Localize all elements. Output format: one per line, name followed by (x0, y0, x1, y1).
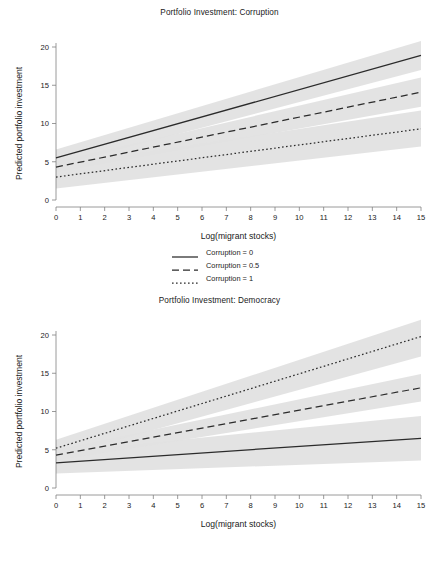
x-axis-tick-label: 4 (151, 213, 155, 222)
y-axis-title: Predicted portfolio investment (14, 66, 24, 180)
x-axis-tick-label: 5 (176, 213, 180, 222)
x-axis-tick-label: 1 (78, 501, 82, 510)
x-axis-tick-label: 9 (273, 501, 277, 510)
legend-item[interactable]: Corruption = 0.5 (0, 259, 439, 272)
x-axis-tick-label: 7 (224, 213, 228, 222)
x-axis-title: Log(migrant stocks) (201, 231, 277, 241)
x-axis-tick-label: 5 (176, 501, 180, 510)
x-axis-tick-label: 13 (368, 501, 376, 510)
figure-portfolio-investment: Portfolio Investment: Corruption 0510152… (0, 0, 439, 581)
legend-item-label: Corruption = 1 (206, 274, 253, 283)
y-axis-title: Predicted portfolio investment (14, 354, 24, 468)
x-axis-tick-label: 6 (200, 501, 204, 510)
x-axis-tick-label: 4 (151, 501, 155, 510)
plot-area-corruption: 051015200123456789101112131415Log(migran… (0, 0, 439, 246)
x-axis-tick-label: 1 (78, 213, 82, 222)
x-axis-tick-label: 7 (224, 501, 228, 510)
y-axis-tick-label: 15 (41, 81, 49, 90)
x-axis-tick-label: 8 (249, 213, 253, 222)
x-axis-tick-label: 2 (103, 501, 107, 510)
x-axis-tick-label: 13 (368, 213, 376, 222)
legend-item[interactable]: Corruption = 1 (0, 272, 439, 285)
legend-item-label: Corruption = 0.5 (206, 261, 259, 270)
x-axis-tick-label: 11 (320, 501, 328, 510)
y-axis-tick-label: 10 (41, 407, 49, 416)
x-axis-tick-label: 0 (54, 501, 58, 510)
legend-item-label: Corruption = 0 (206, 248, 253, 257)
legend-line-swatch (171, 274, 199, 284)
x-axis-tick-label: 15 (417, 213, 425, 222)
x-axis-tick-label: 11 (320, 213, 328, 222)
x-axis-tick-label: 2 (103, 213, 107, 222)
x-axis-tick-label: 10 (295, 213, 303, 222)
legend-line-swatch (171, 248, 199, 258)
x-axis-tick-label: 0 (54, 213, 58, 222)
x-axis-tick-label: 14 (392, 501, 400, 510)
y-axis-tick-label: 20 (41, 43, 49, 52)
legend-line-swatch (171, 261, 199, 271)
x-axis-tick-label: 9 (273, 213, 277, 222)
x-axis-tick-label: 3 (127, 501, 131, 510)
plot-area-democracy: 051015200123456789101112131415Log(migran… (0, 288, 439, 534)
x-axis-tick-label: 10 (295, 501, 303, 510)
y-axis-tick-label: 0 (45, 484, 49, 493)
y-axis-tick-label: 5 (45, 158, 49, 167)
y-axis-tick-label: 15 (41, 369, 49, 378)
y-axis-tick-label: 5 (45, 446, 49, 455)
y-axis-tick-label: 20 (41, 331, 49, 340)
chart-panel-democracy: Portfolio Investment: Democracy 05101520… (0, 288, 439, 581)
legend-item[interactable]: Corruption = 0 (0, 246, 439, 259)
x-axis-tick-label: 15 (417, 501, 425, 510)
x-axis-tick-label: 12 (344, 213, 352, 222)
x-axis-tick-label: 12 (344, 501, 352, 510)
x-axis-tick-label: 14 (392, 213, 400, 222)
x-axis-title: Log(migrant stocks) (201, 519, 277, 529)
chart-panel-corruption: Portfolio Investment: Corruption 0510152… (0, 0, 439, 290)
x-axis-tick-label: 8 (249, 501, 253, 510)
x-axis-tick-label: 3 (127, 213, 131, 222)
legend-corruption: Corruption = 0Corruption = 0.5Corruption… (0, 246, 439, 285)
x-axis-tick-label: 6 (200, 213, 204, 222)
y-axis-tick-label: 0 (45, 196, 49, 205)
y-axis-tick-label: 10 (41, 119, 49, 128)
